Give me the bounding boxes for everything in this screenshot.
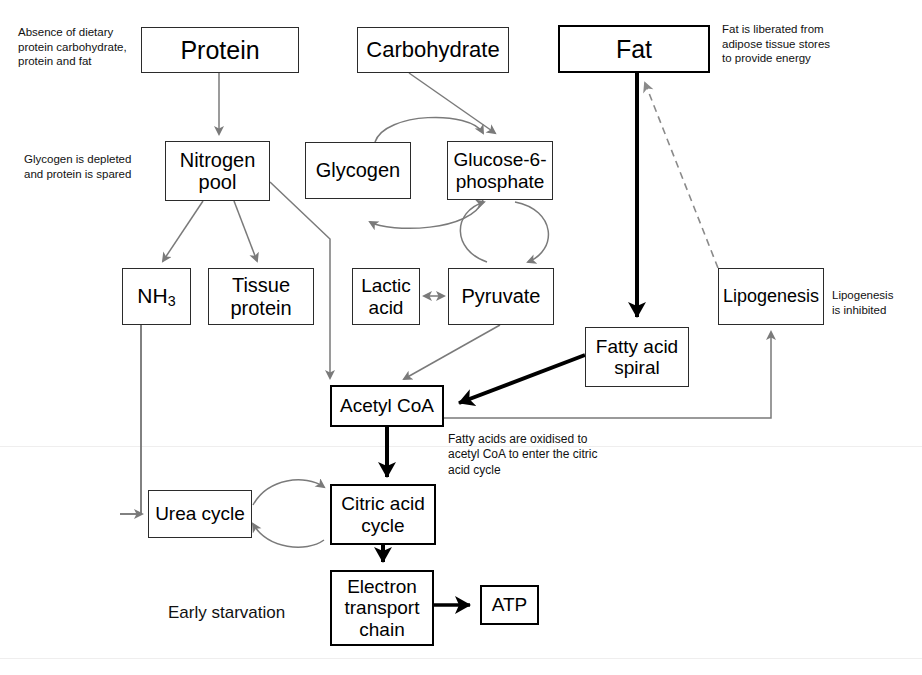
node-fatty-acid-spiral-label: Fatty acid spiral bbox=[586, 336, 688, 379]
edge-fattyacid-to-acetylcoa bbox=[459, 355, 585, 403]
node-electron-transport-chain[interactable]: Electron transport chain bbox=[330, 570, 434, 646]
node-carbohydrate-label: Carbohydrate bbox=[362, 38, 503, 63]
annotation-fat-liberated: Fat is liberated from adipose tissue sto… bbox=[722, 22, 872, 66]
node-nh3-label: NH3 bbox=[133, 284, 179, 309]
node-nh3[interactable]: NH3 bbox=[122, 268, 191, 325]
metabolic-pathway-diagram: Protein Carbohydrate Fat Nitrogen pool G… bbox=[0, 0, 922, 675]
node-lactic-acid-label: Lactic acid bbox=[353, 275, 419, 318]
edge-carbohydrate-to-g6p bbox=[409, 73, 495, 133]
edge-urea-to-citric-top bbox=[253, 480, 324, 505]
node-lipogenesis[interactable]: Lipogenesis bbox=[718, 268, 824, 325]
node-citric-acid-cycle-label: Citric acid cycle bbox=[332, 493, 434, 536]
node-protein[interactable]: Protein bbox=[141, 27, 299, 73]
node-nitrogen-pool-label: Nitrogen pool bbox=[166, 149, 269, 194]
node-atp[interactable]: ATP bbox=[480, 585, 539, 625]
pathway-connector-layer bbox=[0, 0, 922, 675]
node-fat[interactable]: Fat bbox=[558, 25, 710, 73]
edge-glycogen-to-g6p-top bbox=[375, 117, 483, 142]
node-protein-label: Protein bbox=[176, 36, 263, 64]
node-urea-cycle-label: Urea cycle bbox=[151, 503, 249, 524]
node-atp-label: ATP bbox=[488, 594, 532, 615]
node-electron-transport-chain-label: Electron transport chain bbox=[332, 576, 432, 640]
node-urea-cycle[interactable]: Urea cycle bbox=[148, 490, 252, 538]
annotation-glycogen-depleted: Glycogen is depleted and protein is spar… bbox=[24, 152, 164, 181]
edge-g6p-to-pyruvate-right bbox=[515, 202, 548, 262]
node-fatty-acid-spiral[interactable]: Fatty acid spiral bbox=[585, 327, 689, 387]
node-glycogen-label: Glycogen bbox=[312, 159, 405, 181]
annotation-absence-of-dietary-intake: Absence of dietary protein carbohydrate,… bbox=[18, 25, 148, 69]
node-carbohydrate[interactable]: Carbohydrate bbox=[357, 27, 509, 73]
node-pyruvate[interactable]: Pyruvate bbox=[448, 268, 554, 325]
edge-nh3-to-urea-stem bbox=[120, 325, 141, 514]
node-lactic-acid[interactable]: Lactic acid bbox=[352, 268, 420, 325]
node-tissue-protein-label: Tissue protein bbox=[209, 274, 313, 319]
annotation-fatty-acids-oxidised: Fatty acids are oxidised to acetyl CoA t… bbox=[448, 432, 678, 478]
node-citric-acid-cycle[interactable]: Citric acid cycle bbox=[330, 484, 436, 545]
node-acetyl-coa[interactable]: Acetyl CoA bbox=[330, 385, 444, 427]
node-glycogen[interactable]: Glycogen bbox=[305, 142, 411, 199]
annotation-lipogenesis-inhibited: Lipogenesis is inhibited bbox=[832, 288, 920, 317]
edge-nitrogen-to-tissue bbox=[234, 201, 257, 261]
node-nitrogen-pool[interactable]: Nitrogen pool bbox=[165, 141, 270, 201]
node-fat-label: Fat bbox=[612, 35, 656, 63]
node-glucose-6-phosphate[interactable]: Glucose-6- phosphate bbox=[447, 141, 553, 200]
edge-citric-to-urea-bottom bbox=[253, 524, 324, 547]
node-tissue-protein[interactable]: Tissue protein bbox=[208, 268, 314, 325]
edge-nitrogen-to-nh3 bbox=[163, 201, 203, 261]
edge-pyruvate-to-acetylcoa bbox=[404, 325, 500, 379]
node-acetyl-coa-label: Acetyl CoA bbox=[336, 395, 438, 416]
diagram-caption: Early starvation bbox=[168, 603, 285, 623]
edge-pyruvate-to-g6p-left bbox=[460, 202, 487, 262]
node-lipogenesis-label: Lipogenesis bbox=[719, 286, 823, 306]
node-pyruvate-label: Pyruvate bbox=[458, 285, 545, 307]
edge-lipogenesis-to-fat bbox=[645, 83, 718, 268]
node-glucose-6-phosphate-label: Glucose-6- phosphate bbox=[448, 149, 552, 192]
